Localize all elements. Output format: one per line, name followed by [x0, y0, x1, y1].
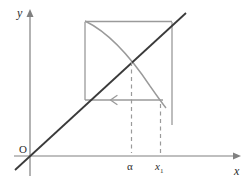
diagram-canvas — [0, 0, 249, 180]
origin-label: O — [19, 144, 27, 155]
x-axis-arrowhead — [233, 153, 241, 160]
tick-label-x1-subscript: 1 — [160, 167, 164, 175]
y-axis-arrowhead — [27, 9, 34, 17]
tick-label-alpha: α — [127, 161, 133, 172]
identity-line — [15, 13, 186, 170]
cobweb-diagram-figure: y x O α x1 — [0, 0, 249, 180]
x-axis-label: x — [234, 165, 239, 177]
y-axis-label: y — [17, 7, 22, 19]
tick-label-x1: x1 — [155, 161, 163, 175]
